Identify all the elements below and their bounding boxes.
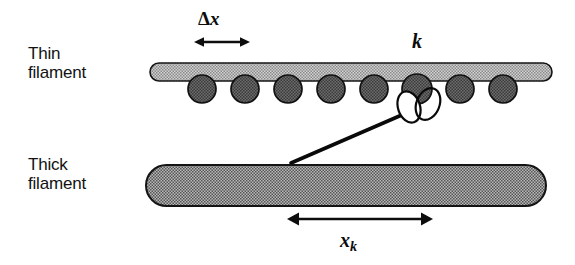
actin-bead — [188, 75, 216, 103]
actin-bead — [489, 75, 517, 103]
actin-bead — [360, 75, 388, 103]
xk-arrow — [287, 213, 433, 226]
actin-bead — [317, 75, 345, 103]
crossbridge-arm — [291, 111, 411, 163]
actin-bead — [231, 75, 259, 103]
delta-x-arrow — [194, 37, 250, 47]
actin-bead — [274, 75, 302, 103]
filament-crossbridge-diagram: Thin filament Thick filament Δx k xk — [0, 0, 575, 265]
thick-filament-bar — [146, 165, 546, 206]
diagram-graphics — [0, 0, 575, 265]
actin-bead — [446, 75, 474, 103]
